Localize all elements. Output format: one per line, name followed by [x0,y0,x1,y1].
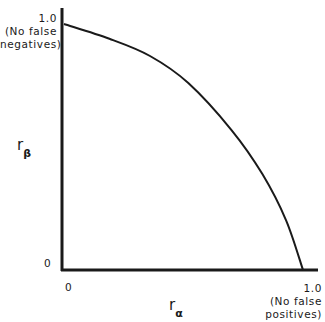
x-tick-0-label: 0 [65,281,72,294]
x-tick-1-value: 1.0 [240,282,322,295]
x-tick-1-note-line2: positives) [240,308,322,321]
tradeoff-curve [64,24,303,270]
x-axis-label: rα [169,298,183,318]
y-tick-0-label: 0 [44,257,51,270]
y-tick-1-label: 1.0 (No false negatives) [0,12,57,51]
x-tick-1-note-line1: (No false [240,295,322,308]
y-tick-1-note-line2: negatives) [0,38,57,51]
x-tick-1-label: 1.0 (No false positives) [240,282,322,321]
y-tick-1-value: 1.0 [0,12,57,25]
y-tick-1-note-line1: (No false [0,25,57,38]
x-axis-label-sub: α [175,307,183,320]
y-axis-label: rβ [17,138,31,158]
y-axis-label-sub: β [23,147,31,160]
